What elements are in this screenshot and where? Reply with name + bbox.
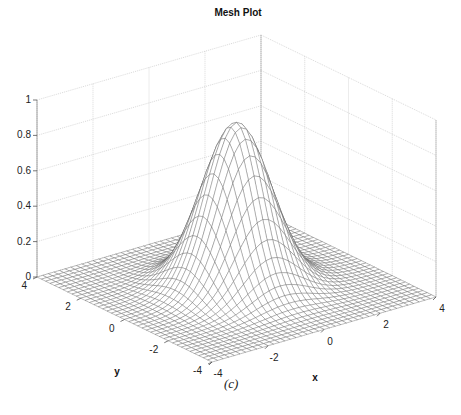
z-tick-label: 1 — [25, 94, 31, 105]
z-tick-label: 0.6 — [17, 165, 31, 176]
chart-title: Mesh Plot — [214, 7, 262, 18]
x-tick-label: -4 — [214, 368, 223, 379]
x-tick-label: 0 — [327, 336, 333, 347]
y-tick-label: 2 — [65, 301, 71, 312]
y-tick-label: 4 — [21, 280, 27, 291]
y-tick-label: 0 — [109, 323, 115, 334]
figure-caption: (c) — [224, 376, 238, 392]
mesh-plot: 00.20.40.60.81-4-2024-4-2024 Mesh Plot y… — [0, 0, 461, 415]
x-tick-label: 4 — [439, 303, 445, 314]
x-axis-label: x — [312, 372, 318, 383]
z-tick-label: 0.2 — [17, 236, 31, 247]
z-tick-label: 0.4 — [17, 200, 31, 211]
x-tick-label: 2 — [383, 319, 389, 330]
y-axis-label: y — [114, 366, 120, 377]
y-tick-label: -4 — [193, 365, 202, 376]
y-tick-label: -2 — [149, 344, 158, 355]
z-tick-label: 0.8 — [17, 129, 31, 140]
x-tick-label: -2 — [270, 352, 279, 363]
surface-mesh — [37, 122, 436, 362]
